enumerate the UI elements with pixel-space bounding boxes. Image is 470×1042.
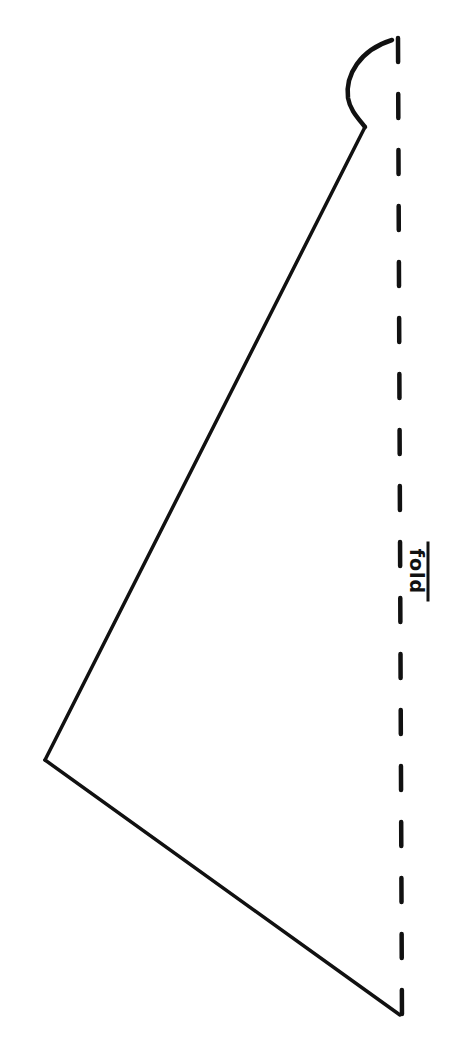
fold-line	[398, 38, 402, 1024]
fold-label: fold	[407, 542, 430, 602]
pattern-diagram	[0, 0, 470, 1042]
outline-upper-edge	[45, 127, 365, 760]
outline-lower-edge	[45, 760, 400, 1015]
top-curve	[348, 40, 392, 127]
